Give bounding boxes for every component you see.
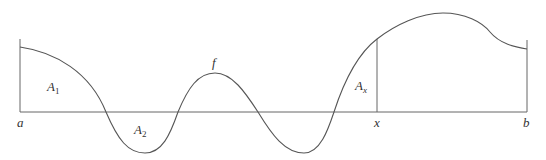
label-A1: A1 xyxy=(46,79,59,96)
label-a: a xyxy=(17,115,24,130)
label-A2: A2 xyxy=(133,122,146,139)
label-f: f xyxy=(212,55,218,70)
label-x: x xyxy=(373,115,380,130)
label-b: b xyxy=(523,115,530,130)
area-function-diagram: a x b f A1 A2 Ax xyxy=(0,0,546,160)
label-Ax: Ax xyxy=(354,78,367,95)
function-curve xyxy=(20,13,527,153)
